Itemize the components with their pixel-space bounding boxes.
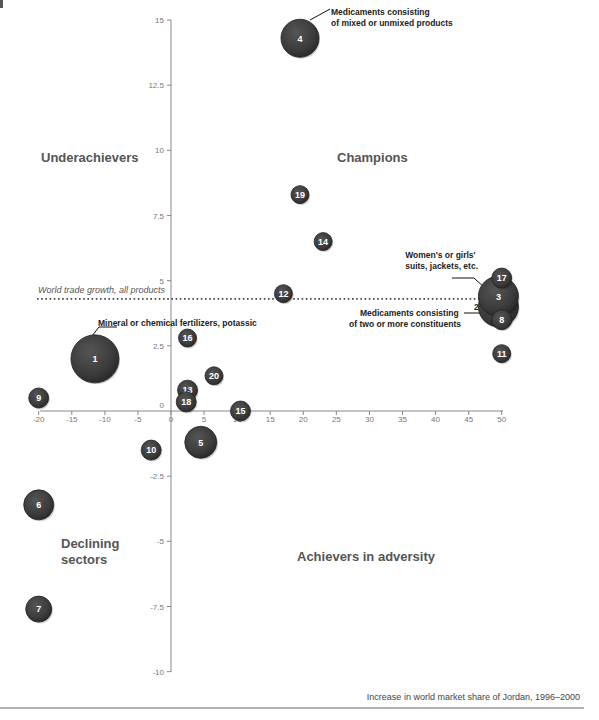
- bubble-1: 1: [71, 335, 120, 385]
- bubble-16: 16: [179, 329, 198, 349]
- bubble-label: 16: [183, 333, 193, 343]
- bubble-label: 4: [297, 34, 302, 44]
- bubble-label: 10: [146, 445, 156, 455]
- x-axis-title: Increase in world market share of Jordan…: [367, 692, 580, 702]
- y-tick-label: -10: [152, 668, 164, 677]
- y-tick-label: 12.5: [148, 81, 164, 90]
- y-tick-label: -7.5: [150, 603, 164, 612]
- bubble-11: 11: [493, 345, 512, 365]
- y-tick-label: 10: [155, 146, 164, 155]
- x-tick-label: 30: [365, 415, 374, 424]
- x-tick-label: 5: [202, 415, 207, 424]
- x-tick-label: 50: [497, 415, 506, 424]
- x-axis-ticks: -20-15-10-505101520253035404550: [33, 411, 507, 424]
- bubble-label: 1: [92, 354, 97, 364]
- quadrant-label-underachievers: Underachievers: [41, 150, 139, 165]
- bubble-label: 15: [235, 406, 245, 416]
- bubble-4: 4: [281, 19, 320, 59]
- y-tick-label-zero: 0: [160, 401, 165, 410]
- bubble-9: 9: [29, 388, 50, 410]
- bubble-12: 12: [274, 285, 293, 305]
- bubble-label: 7: [36, 604, 41, 614]
- bubble-label: 3: [496, 292, 501, 302]
- y-axis-ticks: 1512.5107.552.5-2.5-5-7.5-100: [148, 16, 171, 677]
- bubble-label: 5: [198, 438, 203, 448]
- bubble-label: 17: [497, 273, 507, 283]
- quadrant-label-champions: Champions: [337, 150, 408, 165]
- bubble-14: 14: [314, 233, 333, 253]
- bubble-label: 12: [278, 289, 288, 299]
- x-tick-label: 0: [169, 415, 174, 424]
- x-tick-label: 15: [266, 415, 275, 424]
- bubble-20: 20: [205, 367, 224, 387]
- bubble-label: 18: [181, 397, 191, 407]
- y-tick-label: -2.5: [150, 472, 164, 481]
- annotation-medicaments-mixed: Medicaments consisting of mixed or unmix…: [331, 7, 453, 28]
- x-tick-label: 35: [398, 415, 407, 424]
- bubble-6: 6: [24, 490, 55, 521]
- bubble-label: 9: [36, 393, 41, 403]
- annotation-fertilizers: Mineral or chemical fertilizers, potassi…: [98, 318, 257, 328]
- x-tick-label: -15: [66, 415, 78, 424]
- annotation-medicaments-constituents: Medicaments consisting of two or more co…: [349, 308, 461, 329]
- bubble-label: 14: [318, 237, 328, 247]
- x-tick-label: 20: [299, 415, 308, 424]
- bubble-chart: 1512.5107.552.5-2.5-5-7.5-100 -20-15-10-…: [0, 0, 599, 720]
- y-tick-label: -5: [157, 537, 165, 546]
- x-tick-label: 45: [464, 415, 473, 424]
- annotation-leader-4: [310, 9, 330, 20]
- bubble-19: 19: [291, 186, 310, 206]
- bubble-5: 5: [185, 426, 218, 460]
- bubble-label: 11: [497, 349, 507, 359]
- quadrant-label-achievers-in-adversity: Achievers in adversity: [297, 549, 436, 564]
- x-tick-label: -20: [33, 415, 45, 424]
- quadrant-label-declining-sectors: Declining sectors: [61, 536, 123, 567]
- y-tick-label: 15: [155, 16, 164, 25]
- y-tick-label: 7.5: [153, 212, 165, 221]
- x-tick-label: -10: [99, 415, 111, 424]
- bubble-7: 7: [26, 596, 53, 624]
- y-tick-label: 2.5: [153, 342, 165, 351]
- x-tick-label: 40: [431, 415, 440, 424]
- bubble-10: 10: [141, 440, 162, 462]
- bubble-label: 20: [209, 371, 219, 381]
- world-trade-growth-label: World trade growth, all products: [38, 285, 166, 295]
- x-tick-label: -5: [134, 415, 142, 424]
- annotation-womens-suits: Women's or girls' suits, jackets, etc.: [405, 250, 478, 271]
- bubble-label: 19: [295, 190, 305, 200]
- reference-line-group: World trade growth, all products: [37, 285, 505, 299]
- x-tick-label: 25: [332, 415, 341, 424]
- bubble-label: 8: [499, 315, 504, 325]
- bubble-label: 6: [36, 500, 41, 510]
